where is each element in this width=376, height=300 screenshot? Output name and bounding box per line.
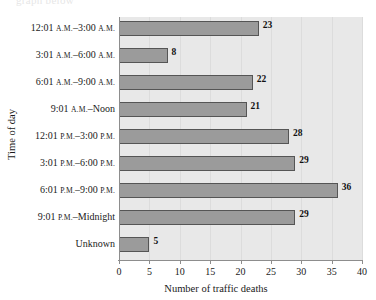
- bar-value-label: 36: [342, 182, 352, 192]
- x-axis-tick: [210, 260, 211, 264]
- bar[interactable]: [119, 75, 253, 90]
- bar-row: 23: [119, 17, 362, 44]
- x-axis-tick: [271, 260, 272, 264]
- x-axis-tick: [301, 260, 302, 264]
- bar-row: 28: [119, 125, 362, 152]
- x-axis-title: Number of traffic deaths: [0, 283, 376, 294]
- y-axis-line: [119, 17, 120, 260]
- bar-row: 8: [119, 44, 362, 71]
- category-label: 9:01 A.M.–Noon: [6, 103, 119, 114]
- bar-row: 36: [119, 179, 362, 206]
- x-axis-tick: [149, 260, 150, 264]
- x-axis-tick-label: 0: [107, 266, 131, 277]
- bar[interactable]: [119, 48, 168, 63]
- bar-row: 29: [119, 152, 362, 179]
- gridline: [362, 17, 363, 260]
- bar-value-label: 22: [257, 74, 267, 84]
- bar[interactable]: [119, 210, 295, 225]
- bar[interactable]: [119, 129, 289, 144]
- bar-value-label: 23: [263, 20, 273, 30]
- bar-value-label: 8: [172, 47, 177, 57]
- bar-row: 5: [119, 233, 362, 260]
- category-label: 12:01 P.M.–3:00 P.M.: [6, 130, 119, 141]
- x-axis-tick: [241, 260, 242, 264]
- bar-value-label: 21: [251, 101, 261, 111]
- bar[interactable]: [119, 237, 149, 252]
- x-axis-tick: [119, 260, 120, 264]
- x-axis-tick-label: 25: [259, 266, 283, 277]
- bar-row: 22: [119, 71, 362, 98]
- bar-row: 29: [119, 206, 362, 233]
- category-label: 6:01 P.M.–9:00 P.M.: [6, 184, 119, 195]
- bar-value-label: 29: [299, 155, 309, 165]
- category-label: 12:01 A.M.–3:00 A.M.: [6, 22, 119, 33]
- bar[interactable]: [119, 21, 259, 36]
- bar-chart-figure: graph below Time of day 2382221282936295…: [0, 0, 376, 300]
- category-label: 9:01 P.M.–Midnight: [6, 211, 119, 222]
- bar[interactable]: [119, 102, 247, 117]
- bar[interactable]: [119, 156, 295, 171]
- x-axis-tick-label: 5: [137, 266, 161, 277]
- x-axis-tick: [332, 260, 333, 264]
- category-label: Unknown: [6, 238, 119, 249]
- category-label: 6:01 A.M.–9:00 A.M.: [6, 76, 119, 87]
- x-axis-tick-label: 15: [198, 266, 222, 277]
- x-axis-tick: [180, 260, 181, 264]
- x-axis-tick-label: 35: [320, 266, 344, 277]
- y-axis-tick-labels: 12:01 A.M.–3:00 A.M.3:01 A.M.–6:00 A.M.6…: [0, 17, 119, 260]
- bar-value-label: 28: [293, 128, 303, 138]
- x-axis-tick: [362, 260, 363, 264]
- x-axis-title-text: Number of traffic deaths: [108, 283, 267, 294]
- bar[interactable]: [119, 183, 338, 198]
- x-axis-tick-label: 20: [229, 266, 253, 277]
- bar-value-label: 29: [299, 209, 309, 219]
- x-axis-tick-label: 40: [350, 266, 374, 277]
- x-axis-tick-label: 30: [289, 266, 313, 277]
- x-axis-tick-label: 10: [168, 266, 192, 277]
- page-text-remnant: graph below: [16, 0, 74, 6]
- bar-value-label: 5: [153, 236, 158, 246]
- category-label: 3:01 P.M.–6:00 P.M.: [6, 157, 119, 168]
- bar-row: 21: [119, 98, 362, 125]
- plot-area: 2382221282936295: [119, 17, 362, 260]
- category-label: 3:01 A.M.–6:00 A.M.: [6, 49, 119, 60]
